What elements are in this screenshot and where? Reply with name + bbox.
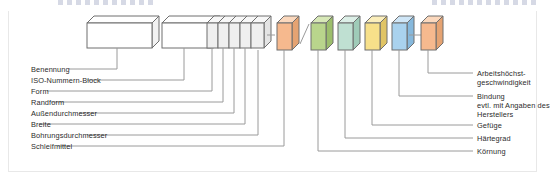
block-haertegrad <box>338 16 360 50</box>
label-haertegrad: Härtegrad <box>477 134 511 143</box>
block-bohrungsdurchmesser <box>251 16 271 48</box>
block-schleifmittel <box>277 16 299 50</box>
header-text-left-cropped <box>58 0 154 5</box>
diagram-canvas <box>9 11 536 171</box>
label-schleifmittel: Schleifmittel <box>31 142 72 151</box>
block-gefuege <box>365 16 387 50</box>
connector-slash <box>300 24 309 44</box>
label-gefuege: Gefüge <box>477 121 502 130</box>
header-text-right-cropped <box>432 0 540 5</box>
header-rule <box>0 7 543 9</box>
label-koernung: Körnung <box>477 147 506 156</box>
label-aussendurchmesser: Außendurchmesser <box>31 109 97 118</box>
leader-lines-right <box>318 50 473 151</box>
label-bohrungsdurchmesser: Bohrungsdurchmesser <box>31 131 107 140</box>
label-randform: Randform <box>31 98 64 107</box>
block-bindung <box>392 16 414 50</box>
label-breite: Breite <box>31 120 51 129</box>
diagram-frame: Benennung ISO-Nummern-Block Form Randfor… <box>8 11 537 172</box>
label-arbeitshoechstgeschwindigkeit: Arbeitshöchst- geschwindigkeit <box>477 69 531 87</box>
block-arbeitshoechstgeschwindigkeit <box>421 16 443 50</box>
label-iso-nummern-block: ISO-Nummern-Block <box>31 76 101 85</box>
label-form: Form <box>31 87 49 96</box>
label-bindung: Bindung evtl. mit Angaben des Hersteller… <box>477 92 550 120</box>
block-koernung <box>311 16 333 50</box>
label-benennung: Benennung <box>31 65 70 74</box>
block-benennung <box>87 16 159 48</box>
